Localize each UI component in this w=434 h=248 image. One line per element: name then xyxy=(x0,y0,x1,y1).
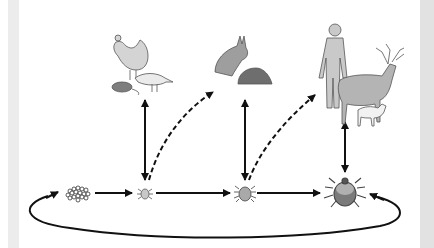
bird-icon xyxy=(135,74,173,93)
dashed-transition-arrows xyxy=(149,92,315,180)
nymph-hosts xyxy=(215,36,272,84)
adult-tick-icon xyxy=(324,178,366,207)
eggs-icon xyxy=(66,186,90,202)
adult-hosts xyxy=(319,24,404,126)
larva-tick-icon xyxy=(137,189,153,199)
hedgehog-icon xyxy=(238,68,272,84)
tick-life-cycle-diagram xyxy=(0,0,434,248)
mouse-icon xyxy=(112,82,139,95)
larva-hosts xyxy=(112,35,173,95)
rabbit-icon xyxy=(215,36,248,76)
dog-icon xyxy=(358,104,386,126)
chicken-icon xyxy=(114,35,148,80)
nymph-tick-icon xyxy=(234,186,256,202)
host-arrows xyxy=(145,100,345,180)
